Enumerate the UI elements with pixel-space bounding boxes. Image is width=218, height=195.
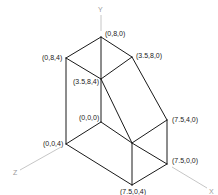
vertex-labels: (0,8,0) (3.5,8,0) (0,8,4) (3.5,8,4) (0,0… [42, 30, 198, 195]
vertex-label-0-8-0: (0,8,0) [105, 30, 125, 38]
edge-3580-7540 [132, 57, 167, 120]
vertex-label-0-0-0: (0,0,0) [79, 114, 99, 122]
x-axis-label: X [209, 188, 214, 195]
isometric-solid-diagram: Y Z X (0,8,0) (3.5,8,0) (0,8,4) (3.5,8,4… [0, 0, 218, 195]
edge-7544-7500 [132, 143, 167, 164]
x-axis-line [172, 167, 207, 188]
edge-080-3580 [101, 37, 132, 57]
solid-edges [66, 37, 167, 185]
vertex-label-3.5-8-0: (3.5,8,0) [136, 52, 162, 60]
edge-3584-3580 [101, 57, 132, 79]
edge-3584-7544 [101, 79, 132, 143]
vertex-label-7.5-0-4: (7.5,0,4) [120, 188, 146, 195]
z-axis-line [20, 147, 61, 170]
z-axis-label: Z [13, 169, 18, 176]
vertex-label-7.5-4-0: (7.5,4,0) [172, 116, 198, 124]
vertex-label-0-8-4: (0,8,4) [42, 54, 62, 62]
edge-7544-7540 [132, 120, 167, 143]
edge-004-7504 [66, 144, 132, 185]
y-axis-label: Y [98, 6, 103, 13]
edge-7504-7500 [132, 164, 167, 185]
edge-080-084 [66, 37, 101, 58]
vertex-label-3.5-8-4: (3.5,8,4) [73, 78, 99, 86]
vertex-label-7.5-0-0: (7.5,0,0) [172, 157, 198, 165]
vertex-label-0-0-4: (0,0,4) [43, 140, 63, 148]
edge-004-000-ridge [66, 122, 101, 144]
edge-084-3584 [66, 58, 101, 79]
